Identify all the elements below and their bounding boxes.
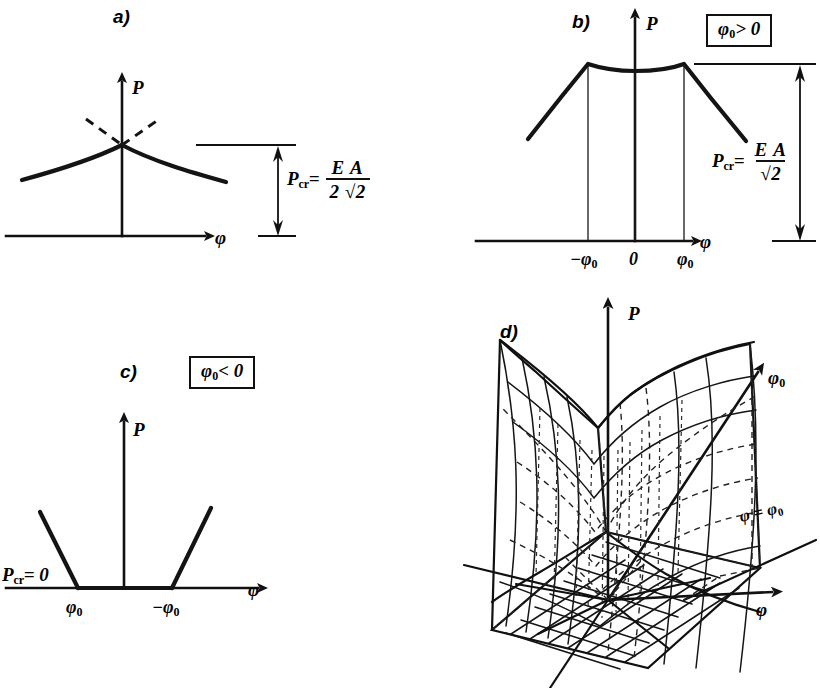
panel-b-tick-label-phi0: φ0 <box>677 250 694 270</box>
panel-b-y-axis-label: P <box>646 14 658 33</box>
panel-c-y-axis-label: P <box>133 420 145 439</box>
panel-b-equilibrium-curve <box>528 64 746 141</box>
panel-d-phi0-axis-label: φ0 <box>768 368 785 389</box>
panel-a-x-axis-label: φ <box>215 228 226 247</box>
panel-d-letter: d) <box>500 322 518 341</box>
panel-a-pcr-symbol: Pcr= <box>287 169 320 190</box>
figure-root: a) P φ Pcr= E A 2 √2 <box>0 0 820 688</box>
panel-a-letter: a) <box>113 7 130 26</box>
panel-b-tick-label-neg-phi0: −φ0 <box>570 250 597 270</box>
panel-b-pcr-denominator: √2 <box>756 160 785 183</box>
panel-a-critical-load-formula: Pcr= E A 2 √2 <box>287 158 370 201</box>
panel-a-unstable-left-branch <box>86 119 122 145</box>
panel-c-letter: c) <box>120 362 137 381</box>
panel-b-pcr-symbol: Pcr= <box>712 151 745 172</box>
panel-a-pcr-numerator: E A <box>327 158 367 178</box>
panel-d-graphics <box>420 300 820 688</box>
panel-c-critical-load-label: Pcr= 0 <box>2 565 49 586</box>
panel-d-upper-sheet-long-curves <box>500 340 756 672</box>
panel-b-tick-label-zero: 0 <box>629 250 638 268</box>
panel-d-phi-axis-label: φ <box>756 600 767 619</box>
panel-a-graphics <box>0 0 420 300</box>
panel-c-right-rising-branch <box>172 508 211 588</box>
panel-b-condition-text: φ0> 0 <box>718 18 760 39</box>
panel-b-condition-box: φ0> 0 <box>706 14 772 47</box>
panel-c-tick-label-phi0: φ0 <box>66 598 83 618</box>
panel-a-y-axis-label: P <box>132 78 144 97</box>
panel-b-pcr-fraction: E A √2 <box>751 140 791 183</box>
panel-a-unstable-right-branch <box>122 120 158 145</box>
panel-c-x-axis-label: φ <box>248 580 259 599</box>
panel-b-x-axis-label: φ <box>700 232 711 251</box>
panel-b-critical-load-formula: Pcr= E A √2 <box>712 140 791 183</box>
panel-a-stable-left-branch <box>22 145 122 180</box>
panel-b-pcr-numerator: E A <box>751 140 791 160</box>
panel-a-pcr-denominator: 2 √2 <box>326 178 370 201</box>
panel-a-stable-right-branch <box>122 145 226 182</box>
panel-c-condition-text: φ0< 0 <box>201 360 243 381</box>
panel-a-pcr-fraction: E A 2 √2 <box>326 158 370 201</box>
panel-c-tick-label-neg-phi0: −φ0 <box>152 598 179 618</box>
panel-c-condition-box: φ0< 0 <box>189 356 255 389</box>
panel-d-p-axis-label: P <box>628 304 640 323</box>
panel-b-letter: b) <box>572 12 590 31</box>
